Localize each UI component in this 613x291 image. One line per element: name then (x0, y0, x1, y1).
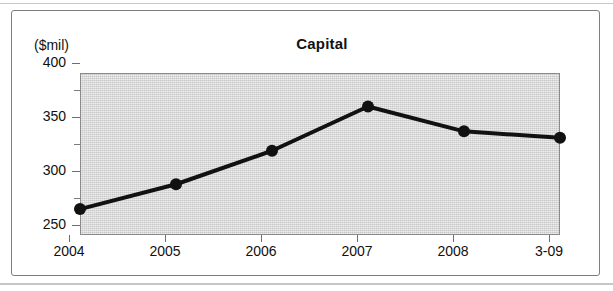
x-tick-label: 2008 (417, 243, 489, 259)
data-point-marker (170, 178, 182, 190)
x-tick-mark (261, 235, 262, 242)
x-tick-label: 3-09 (513, 243, 585, 259)
data-point-marker (458, 125, 470, 137)
x-tick-label: 2004 (33, 243, 105, 259)
x-tick-mark (453, 235, 454, 242)
chart-title: Capital (162, 35, 482, 52)
y-tick-mark (72, 171, 80, 172)
data-point-marker (74, 203, 86, 215)
x-tick-label: 2005 (129, 243, 201, 259)
x-tick-label: 2006 (225, 243, 297, 259)
x-tick-mark (549, 235, 550, 242)
y-tick-label: 400 (20, 54, 66, 70)
scan-artifact-bottom-line (0, 283, 613, 285)
y-tick-label: 250 (20, 216, 66, 232)
data-point-marker (266, 145, 278, 157)
y-tick-mark (72, 225, 80, 226)
data-point-marker (362, 100, 374, 112)
data-series-line (80, 73, 560, 235)
x-tick-mark (69, 235, 70, 242)
x-tick-label: 2007 (321, 243, 393, 259)
x-tick-mark (165, 235, 166, 242)
scan-artifact-top-line (0, 3, 613, 4)
y-tick-mark (72, 63, 80, 64)
y-tick-mark (72, 117, 80, 118)
y-tick-label: 300 (20, 162, 66, 178)
y-axis-unit-label: ($mil) (34, 37, 69, 53)
data-point-marker (554, 132, 566, 144)
chart-figure-frame: Capital ($mil) 250300350400 200420052006… (11, 10, 600, 276)
x-tick-mark (357, 235, 358, 242)
y-tick-label: 350 (20, 108, 66, 124)
